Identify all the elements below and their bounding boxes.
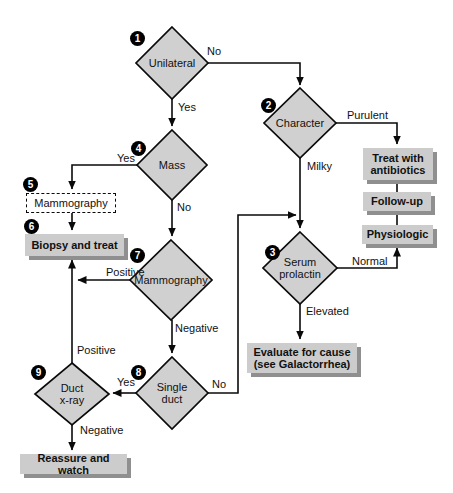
step-badge-1: 1 [130, 31, 145, 46]
label-single-duct: Single duct [157, 381, 188, 405]
box-mammography-dashed: Mammography [26, 193, 116, 213]
edge-label-elevated: Elevated [306, 305, 349, 317]
edge-unilateral-no [208, 63, 300, 85]
edge-label-milky: Milky [307, 160, 332, 172]
step-badge-6: 6 [24, 219, 39, 234]
box-evaluate-for-cause: Evaluate for cause (see Galactorrhea) [247, 343, 357, 373]
edge-label-single-duct-yes: Yes [117, 376, 135, 388]
step-badge-7: 7 [130, 248, 145, 263]
box-biopsy-and-treat-text: Biopsy and treat [31, 239, 117, 252]
step-badge-5: 5 [23, 177, 38, 192]
edge-label-unilateral-yes: Yes [178, 101, 196, 113]
edge-label-single-duct-no: No [212, 378, 226, 390]
edge-character-purulent [336, 123, 397, 144]
label-mass: Mass [159, 159, 185, 171]
label-serum-prolactin: Serum prolactin [279, 256, 321, 280]
box-reassure-and-watch: Reassure and watch [20, 454, 127, 474]
box-treat-with-antibiotics: Treat with antibiotics [363, 148, 433, 180]
edge-label-duct-xray-positive: Positive [77, 344, 116, 356]
label-duct-xray: Duct x-ray [60, 382, 84, 406]
edge-label-purulent: Purulent [347, 109, 388, 121]
step-badge-2: 2 [261, 98, 276, 113]
step-badge-3: 3 [265, 245, 280, 260]
box-biopsy-and-treat: Biopsy and treat [25, 234, 124, 256]
edge-label-mass-yes: Yes [117, 152, 135, 164]
edge-label-mammography-negative: Negative [175, 322, 218, 334]
edge-label-mammography-positive: Positive [106, 266, 145, 278]
label-mammography: Mammography [134, 274, 207, 286]
edge-label-normal: Normal [352, 255, 387, 267]
edge-label-mass-no: No [177, 201, 191, 213]
edge-mass-yes [72, 165, 137, 189]
flowchart-nipple-discharge: Unilateral Character Serum prolactin Mas… [0, 0, 453, 493]
box-follow-up: Follow-up [363, 192, 431, 211]
label-unilateral: Unilateral [149, 57, 195, 69]
edge-label-duct-xray-negative: Negative [80, 424, 123, 436]
label-character: Character [276, 117, 324, 129]
step-badge-9: 9 [31, 365, 46, 380]
box-physiologic: Physiologic [362, 225, 433, 244]
edge-label-unilateral-no: No [207, 45, 221, 57]
